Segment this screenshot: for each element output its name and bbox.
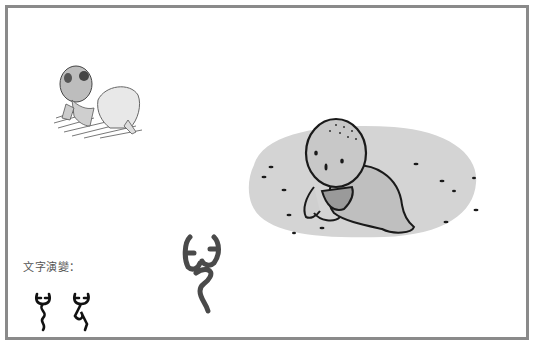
character-evolution-caption: 文字演變： xyxy=(23,258,81,274)
cartoon-baby-on-rug-illustration xyxy=(244,105,484,245)
oracle-bone-glyph-2 xyxy=(71,292,93,334)
seal-script-glyph-large xyxy=(180,233,224,315)
pencil-sketch-baby-illustration xyxy=(50,60,150,145)
oracle-bone-glyph-1 xyxy=(33,290,55,332)
